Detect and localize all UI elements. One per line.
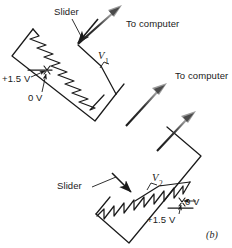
potentiometer-bottom-circuit bbox=[96, 127, 201, 243]
figure-caption: (b) bbox=[206, 229, 218, 240]
bottom-slider-arrow-icon bbox=[112, 173, 131, 192]
top-ground-pointer-icon bbox=[42, 74, 46, 92]
bottom-to-computer-label: To computer bbox=[175, 70, 232, 81]
bottom-circuit-loop bbox=[96, 127, 201, 243]
bottom-slider-label: Slider bbox=[57, 180, 82, 191]
top-slider-arrow-icon bbox=[78, 19, 98, 43]
top-ground-label: 0 V bbox=[28, 92, 43, 103]
top-slider-leader-icon bbox=[72, 19, 82, 38]
potentiometer-figure: Slider To computer V1 +1.5 V 0 V To comp… bbox=[0, 0, 232, 248]
bottom-circuit-left-edge bbox=[96, 197, 110, 214]
bottom-to-computer-arrow-a-icon bbox=[126, 83, 167, 126]
bottom-ground-label: 0 V bbox=[185, 196, 200, 207]
top-voltage-subscript: 1 bbox=[105, 57, 109, 66]
top-to-computer-label: To computer bbox=[126, 18, 184, 29]
top-supply-label: +1.5 V bbox=[2, 73, 30, 84]
bottom-voltage-symbol: V bbox=[152, 172, 159, 183]
top-to-computer-arrow-icon bbox=[78, 5, 122, 44]
top-wiper-wire bbox=[78, 45, 116, 94]
bottom-to-computer-arrow-b-icon bbox=[157, 111, 196, 151]
bottom-resistor-zigzag bbox=[97, 182, 190, 219]
circuit-diagram-svg bbox=[0, 0, 232, 248]
top-circuit-right-edge bbox=[116, 84, 124, 94]
bottom-voltage-subscript: 2 bbox=[159, 179, 163, 188]
top-voltage-label: V1 bbox=[98, 50, 108, 65]
bottom-slider-leader-icon bbox=[92, 177, 116, 187]
bottom-voltage-label: V2 bbox=[152, 172, 162, 187]
top-slider-label: Slider bbox=[54, 6, 79, 17]
bottom-supply-label: +1.5 V bbox=[147, 214, 175, 225]
top-voltage-symbol: V bbox=[98, 50, 105, 61]
